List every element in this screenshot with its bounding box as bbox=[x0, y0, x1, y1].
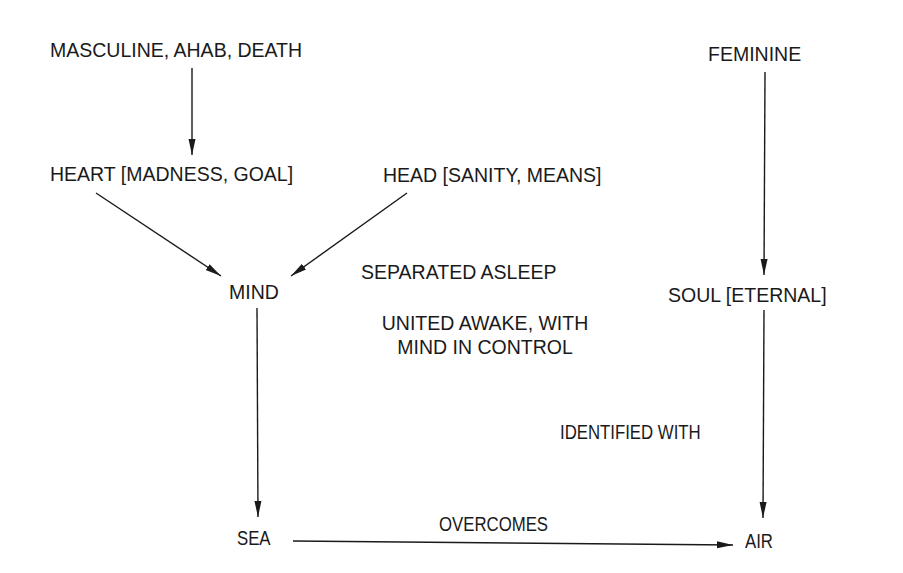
node-air: AIR bbox=[745, 530, 778, 552]
node-sea-label: SEA bbox=[237, 527, 271, 549]
node-heart-label: HEART [MADNESS, GOAL] bbox=[50, 163, 293, 185]
arrow-mind-to-sea bbox=[257, 308, 258, 517]
node-mind-label: MIND bbox=[229, 281, 279, 303]
edge-label-identified-with: IDENTIFIED WITH bbox=[560, 421, 724, 443]
annotation-united-awake-line2: MIND IN CONTROL bbox=[354, 336, 616, 358]
node-masculine-label: MASCULINE, AHAB, DEATH bbox=[50, 39, 302, 61]
node-feminine: FEMININE bbox=[708, 43, 801, 65]
annotation-separated-asleep-text: SEPARATED ASLEEP bbox=[361, 261, 556, 283]
node-head-label: HEAD [SANITY, MEANS] bbox=[383, 164, 602, 186]
node-mind: MIND bbox=[229, 281, 279, 303]
node-soul-label: SOUL [ETERNAL] bbox=[668, 284, 827, 306]
concept-diagram: MASCULINE, AHAB, DEATH FEMININE HEART [M… bbox=[0, 0, 903, 573]
node-air-label: AIR bbox=[745, 530, 773, 552]
node-head: HEAD [SANITY, MEANS] bbox=[383, 164, 602, 186]
arrow-sea-to-air bbox=[293, 541, 733, 545]
node-sea: SEA bbox=[237, 527, 276, 549]
annotation-separated-asleep: SEPARATED ASLEEP bbox=[361, 261, 556, 283]
arrow-heart-to-mind bbox=[96, 193, 221, 276]
arrow-feminine-to-soul bbox=[764, 72, 765, 275]
edge-label-identified-with-text: IDENTIFIED WITH bbox=[560, 421, 701, 443]
node-feminine-label: FEMININE bbox=[708, 43, 801, 65]
edge-label-overcomes-text: OVERCOMES bbox=[439, 513, 548, 535]
annotation-united-awake: UNITED AWAKE, WITH MIND IN CONTROL bbox=[354, 312, 616, 358]
node-soul: SOUL [ETERNAL] bbox=[668, 284, 827, 306]
annotation-united-awake-line1: UNITED AWAKE, WITH bbox=[354, 312, 616, 334]
edge-label-overcomes: OVERCOMES bbox=[439, 513, 566, 535]
node-heart: HEART [MADNESS, GOAL] bbox=[50, 163, 293, 185]
node-masculine: MASCULINE, AHAB, DEATH bbox=[50, 39, 302, 61]
arrow-soul-to-air bbox=[763, 310, 764, 518]
